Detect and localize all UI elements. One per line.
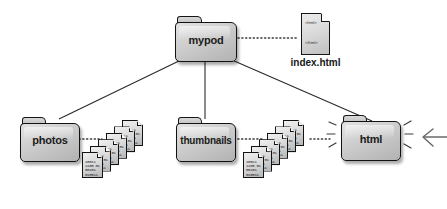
document-label-index-html: index.html — [290, 57, 340, 68]
folder-node-mypod[interactable]: mypod — [175, 16, 237, 62]
highlight-sparkles-right — [404, 121, 413, 148]
edge-mypod-html — [232, 60, 372, 121]
folder-shape: mypod — [175, 16, 237, 62]
file-folded-corner — [298, 121, 304, 126]
folder-shape: html — [341, 115, 401, 161]
folder-node-thumbnails[interactable]: thumbnails — [176, 117, 236, 162]
folder-label-photos: photos — [20, 134, 80, 146]
file-folded-corner — [137, 121, 143, 126]
folder-shape: photos — [20, 117, 80, 162]
folder-label-mypod: mypod — [175, 34, 237, 46]
file-icon[interactable]: 100111100 0100101010011 — [82, 152, 103, 178]
folder-label-html: html — [341, 133, 401, 145]
highlight-sparkles-left — [327, 122, 336, 147]
left-pointing-arrow — [423, 129, 447, 146]
diagram-canvas: mypod <html> </html> index.html photos 1… — [0, 0, 447, 209]
thumbnail-files-stack[interactable]: 100111100 0100101010011100111100 0100101… — [243, 116, 309, 188]
folder-node-photos[interactable]: photos — [20, 117, 80, 162]
document-code-close-tag: </html> — [305, 41, 318, 46]
edge-mypod-photos — [59, 60, 181, 119]
folder-shape: thumbnails — [176, 117, 236, 162]
file-binary-text: 100111100 0100101010011 — [85, 160, 100, 177]
folder-label-thumbnails: thumbnails — [176, 135, 236, 146]
folder-node-html[interactable]: html — [341, 115, 401, 161]
document-node-index-html[interactable]: <html> </html> index.html — [301, 13, 330, 55]
file-icon[interactable]: 100111100 0100101010011 — [243, 152, 264, 178]
photo-files-stack[interactable]: 100111100 0100101010011100111100 0100101… — [82, 116, 148, 188]
document-code-open-tag: <html> — [305, 21, 317, 26]
file-binary-text: 100111100 0100101010011 — [246, 160, 261, 177]
